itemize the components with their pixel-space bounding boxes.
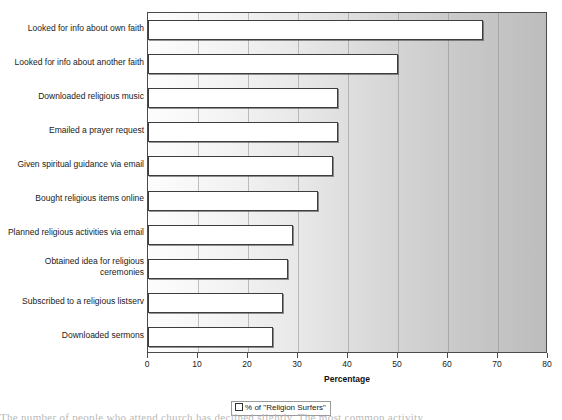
category-label: Looked for info about another faith — [0, 57, 144, 68]
x-axis-tick — [497, 353, 498, 358]
x-axis-tick — [247, 353, 248, 358]
category-label: Emailed a prayer request — [0, 125, 144, 136]
x-axis: 01020304050607080 — [147, 353, 547, 359]
x-axis-tick — [547, 353, 548, 358]
x-axis-tick-label: 60 — [442, 359, 451, 369]
category-label: Planned religious activities via email — [0, 227, 144, 238]
x-axis-tick — [197, 353, 198, 358]
category-label: Given spiritual guidance via email — [0, 159, 144, 170]
x-axis-tick — [447, 353, 448, 358]
x-axis-tick — [347, 353, 348, 358]
x-axis-tick-label: 20 — [242, 359, 251, 369]
x-axis-tick-label: 50 — [392, 359, 401, 369]
category-label: Downloaded sermons — [0, 330, 144, 341]
x-axis-tick — [147, 353, 148, 358]
category-label: Looked for info about own faith — [0, 23, 144, 34]
x-axis-tick-label: 30 — [292, 359, 301, 369]
religion-surfers-bar-chart: Looked for info about own faithLooked fo… — [0, 0, 562, 420]
category-label: Bought religious items online — [0, 193, 144, 204]
category-label: Downloaded religious music — [0, 91, 144, 102]
legend-swatch-icon — [235, 403, 243, 411]
x-axis-tick-label: 70 — [492, 359, 501, 369]
category-label: Subscribed to a religious listserv — [0, 296, 144, 307]
page-body-text-sliver: The number of people who attend church h… — [0, 411, 562, 420]
x-axis-tick — [297, 353, 298, 358]
x-axis-title: Percentage — [147, 374, 547, 384]
x-axis-tick-label: 10 — [192, 359, 201, 369]
x-axis-tick-label: 80 — [542, 359, 551, 369]
category-axis-labels: Looked for info about own faithLooked fo… — [0, 12, 562, 353]
x-axis-tick-label: 40 — [342, 359, 351, 369]
x-axis-tick — [397, 353, 398, 358]
x-axis-tick-label: 0 — [145, 359, 150, 369]
category-label: Obtained idea for religious ceremonies — [0, 256, 144, 277]
